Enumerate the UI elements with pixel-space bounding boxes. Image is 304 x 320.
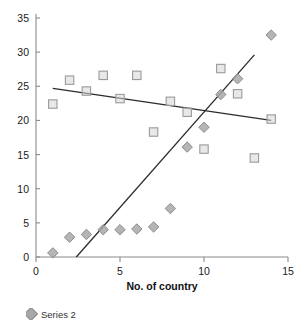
- data-point-square: [250, 154, 258, 162]
- data-point-square: [149, 128, 157, 136]
- y-tick-label: 15: [17, 149, 29, 161]
- data-point-diamond: [81, 229, 91, 239]
- data-point-diamond: [98, 224, 108, 234]
- data-point-square: [116, 94, 124, 102]
- data-point-square: [267, 115, 275, 123]
- data-point-diamond: [199, 122, 209, 132]
- data-point-square: [133, 71, 141, 79]
- axes: 05101520253035051015: [17, 12, 294, 277]
- data-point-diamond: [165, 203, 175, 213]
- data-point-square: [65, 76, 73, 84]
- data-point-square: [82, 87, 90, 95]
- x-tick-label: 0: [33, 265, 39, 277]
- y-tick-label: 30: [17, 46, 29, 58]
- legend-diamond-icon: [26, 308, 38, 320]
- data-point-square: [166, 97, 174, 105]
- data-point-square: [233, 90, 241, 98]
- y-tick-label: 10: [17, 183, 29, 195]
- data-point-diamond: [182, 142, 192, 152]
- x-tick-label: 15: [282, 265, 294, 277]
- chart-legend: Series 2: [26, 308, 76, 320]
- data-point-diamond: [132, 224, 142, 234]
- data-point-diamond: [64, 232, 74, 242]
- data-point-diamond: [115, 224, 125, 234]
- x-tick-label: 5: [117, 265, 123, 277]
- data-point-square: [49, 100, 57, 108]
- legend-label: Series 2: [41, 309, 76, 320]
- y-tick-label: 0: [23, 251, 29, 263]
- x-tick-label: 10: [198, 265, 210, 277]
- data-points: [48, 30, 277, 258]
- data-point-diamond: [266, 30, 276, 40]
- data-point-square: [217, 64, 225, 72]
- data-point-square: [200, 145, 208, 153]
- y-tick-label: 35: [17, 12, 29, 24]
- data-point-diamond: [232, 74, 242, 84]
- y-tick-label: 5: [23, 217, 29, 229]
- y-tick-label: 20: [17, 114, 29, 126]
- data-point-square: [99, 71, 107, 79]
- data-point-square: [183, 108, 191, 116]
- y-tick-label: 25: [17, 80, 29, 92]
- trendlines: [53, 55, 271, 257]
- data-point-diamond: [148, 222, 158, 232]
- x-axis-title: No. of country: [126, 280, 197, 292]
